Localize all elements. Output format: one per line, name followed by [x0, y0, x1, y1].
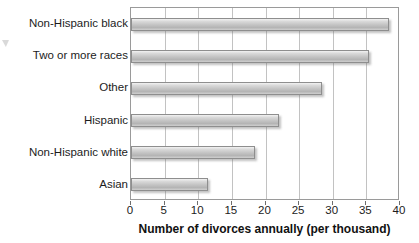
gridline-25: [299, 8, 300, 199]
x-axis-tick-label: 10: [182, 204, 212, 217]
bar: [131, 82, 322, 95]
bar: [131, 114, 279, 127]
gridline-5: [165, 8, 166, 199]
bar: [131, 146, 255, 159]
x-axis-tick-label: 20: [250, 204, 280, 217]
y-axis-category-labels: Non-Hispanic blackTwo or more racesOther…: [0, 0, 128, 200]
x-axis-tick-label: 40: [384, 204, 414, 217]
bar: [131, 18, 389, 31]
plot-area: [130, 7, 399, 200]
chart-figure: Non-Hispanic blackTwo or more racesOther…: [0, 0, 419, 243]
gridline-30: [333, 8, 334, 199]
bar: [131, 50, 369, 63]
gridline-15: [232, 8, 233, 199]
x-axis-title: Number of divorces annually (per thousan…: [130, 222, 399, 236]
gridline-10: [198, 8, 199, 199]
bar: [131, 178, 208, 191]
y-axis-label: Asian: [0, 178, 128, 190]
y-axis-label: Hispanic: [0, 114, 128, 126]
x-axis-tick-label: 0: [115, 204, 145, 217]
y-axis-label: Two or more races: [0, 49, 128, 61]
x-axis-tick-label: 5: [149, 204, 179, 217]
x-axis-tick-label: 30: [317, 204, 347, 217]
gridline-35: [366, 8, 367, 199]
y-axis-label: Non-Hispanic black: [0, 17, 128, 29]
y-axis-label: Non-Hispanic white: [0, 146, 128, 158]
x-axis-tick-label: 35: [350, 204, 380, 217]
x-axis-tick-label: 15: [216, 204, 246, 217]
x-axis-tick-label: 25: [283, 204, 313, 217]
y-axis-label: Other: [0, 81, 128, 93]
gridline-20: [266, 8, 267, 199]
